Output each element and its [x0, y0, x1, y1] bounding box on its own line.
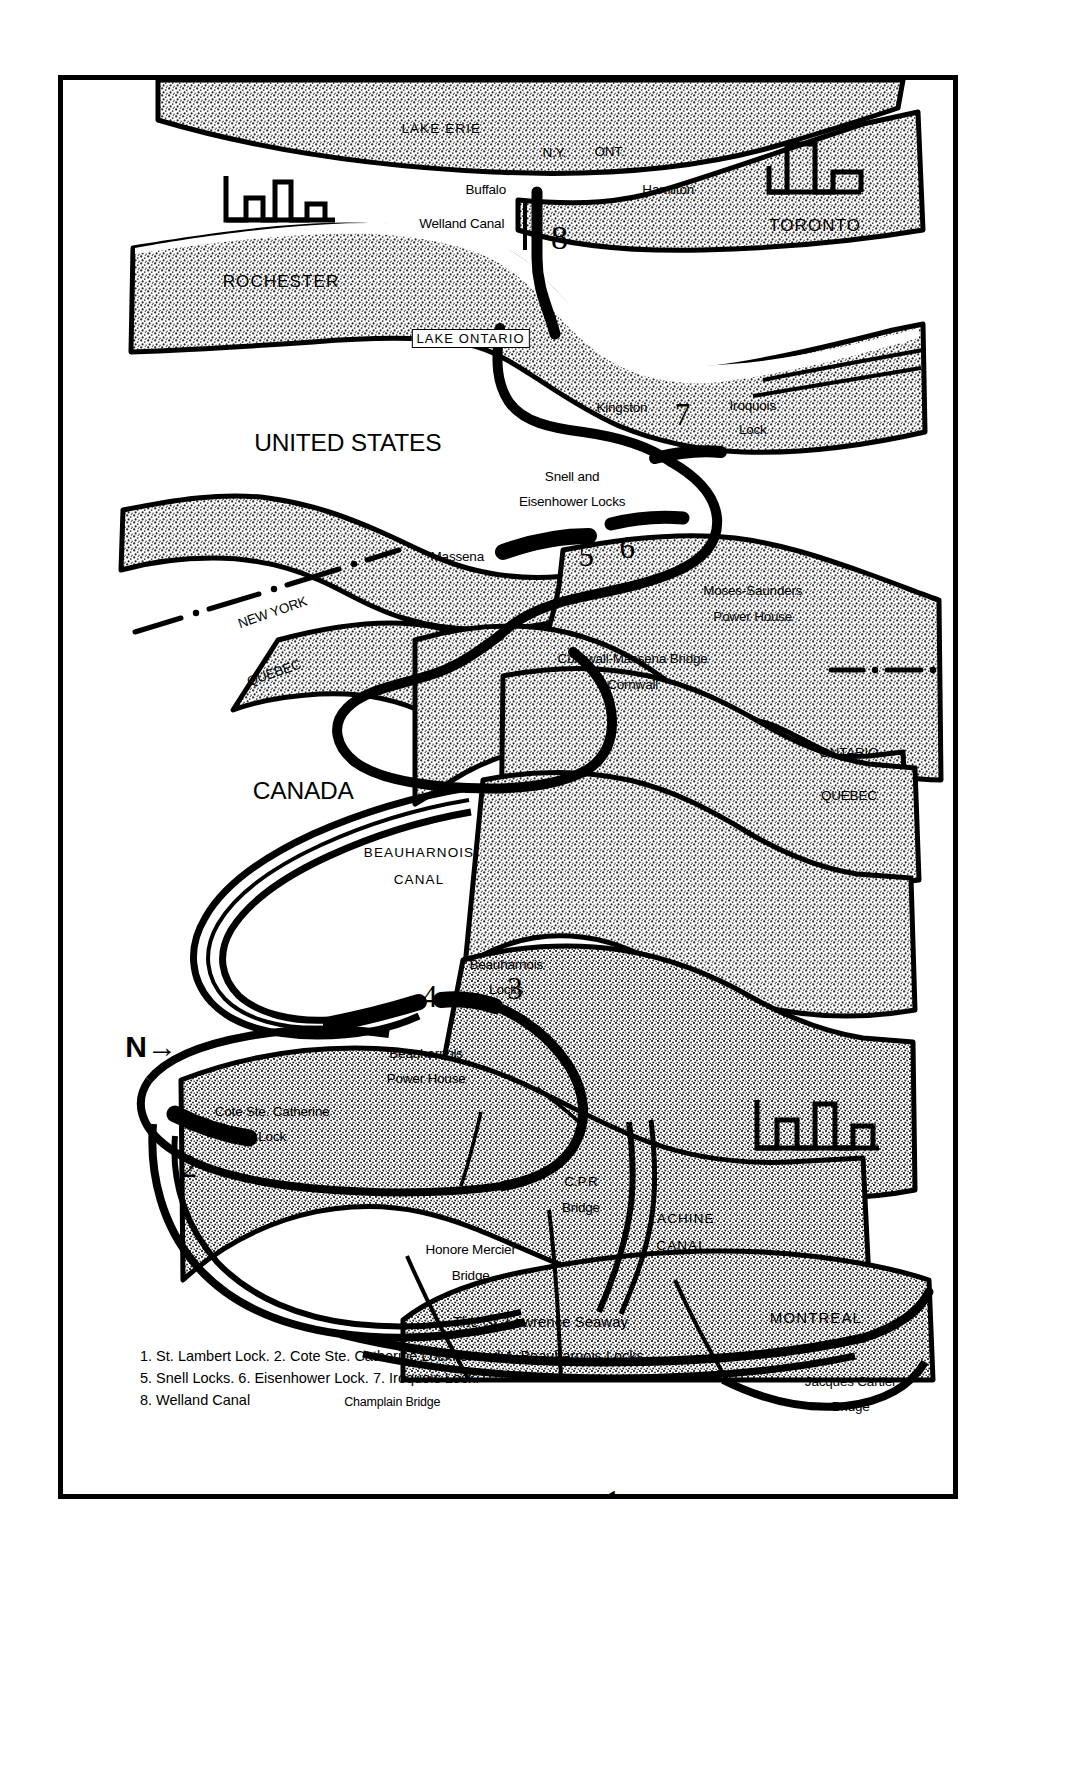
label-quebec-border-e: QUEBEC: [821, 788, 877, 803]
label-lake-erie: LAKE ERIE: [401, 121, 481, 136]
label-cpr-bridge-line2: Bridge: [562, 1200, 600, 1215]
legend-line: 1. St. Lambert Lock. 2. Cote Ste. Cather…: [140, 1345, 648, 1367]
label-beauharnois-power-house-line2: Power House: [387, 1071, 466, 1086]
figure-caption: The St. Lawrence Seaway: [0, 1313, 1081, 1330]
label-honore-mercier-line1: Honore Mercier: [425, 1242, 515, 1257]
lock-number-7: 7: [675, 397, 691, 433]
label-lake-ontario: LAKE ONTARIO: [411, 329, 529, 347]
lock-number-2: 2: [182, 1149, 198, 1185]
lock-number-8: 8: [551, 219, 568, 257]
label-moses-saunders-line2: Power House: [713, 609, 792, 624]
label-lachine-canal-line2: CANAL: [656, 1238, 707, 1253]
label-beauharnois-power-house-line1: Beauharnois: [389, 1046, 463, 1061]
lock-number-4: 4: [422, 979, 438, 1015]
map-frame: LAKE ERIE N.Y. ONT. Buffalo Welland Cana…: [58, 75, 958, 1499]
map-canvas: LAKE ERIE N.Y. ONT. Buffalo Welland Cana…: [63, 80, 953, 1494]
label-ontario-border-e: ONTARIO: [819, 745, 878, 760]
label-kingston: Kingston: [596, 400, 647, 415]
label-jacques-cartier-line1: Jacques Cartier: [805, 1374, 897, 1389]
label-buffalo: Buffalo: [466, 182, 506, 197]
label-toronto: TORONTO: [769, 216, 861, 235]
legend-line: 8. Welland Canal: [140, 1389, 648, 1411]
label-moses-saunders-line1: Moses-Saunders: [703, 583, 802, 598]
label-cote-ste-catherine-line1: Cote Ste. Catherine: [215, 1104, 330, 1119]
label-snell-line2: Eisenhower Locks: [519, 494, 625, 509]
label-beauharnois-canal-line1: BEAUHARNOIS: [364, 845, 474, 860]
label-beauharnois-canal-line2: CANAL: [394, 872, 445, 887]
label-iroquois-lock-line2: Lock: [739, 422, 767, 437]
label-cpr-bridge-line1: C.P.R: [564, 1174, 597, 1189]
label-united-states: UNITED STATES: [254, 429, 441, 456]
label-jacques-cartier-line2: Bridge: [832, 1399, 870, 1414]
map-artwork: [63, 80, 953, 1494]
lock-number-1: 1: [605, 1484, 621, 1494]
map-page: LAKE ERIE N.Y. ONT. Buffalo Welland Cana…: [0, 0, 1081, 1775]
lock-number-6: 6: [620, 530, 636, 566]
label-lachine-canal-line1: LACHINE: [648, 1211, 714, 1226]
label-cote-ste-catherine-line2: Lock: [258, 1129, 286, 1144]
label-beauharnois-locks-line1: Beauharnois: [469, 957, 543, 972]
label-ny-abbr: N.Y.: [542, 145, 566, 160]
label-canada: CANADA: [253, 777, 354, 804]
lock-number-3: 3: [507, 971, 523, 1007]
label-rochester: ROCHESTER: [223, 272, 340, 291]
label-snell-line1: Snell and: [545, 469, 600, 484]
legend-line: 5. Snell Locks. 6. Eisenhower Lock. 7. I…: [140, 1367, 648, 1389]
label-massena: Massena: [431, 549, 484, 564]
label-ont-abbr: ONT.: [594, 144, 624, 159]
label-iroquois-lock-line1: Iroquois: [730, 398, 776, 413]
north-arrow-icon: N→: [125, 1030, 177, 1064]
label-cornwall: Cornwall: [607, 677, 658, 692]
figure-legend: 1. St. Lambert Lock. 2. Cote Ste. Cather…: [140, 1345, 648, 1411]
north-label: N: [125, 1030, 147, 1063]
label-hamilton: Hamilton: [642, 182, 694, 197]
north-arrow-glyph: →: [147, 1030, 177, 1063]
label-welland-canal: Welland Canal: [419, 216, 504, 231]
label-cornwall-massena-bridge: Cornwall-Massena Bridge: [558, 651, 708, 666]
label-honore-mercier-line2: Bridge: [452, 1268, 490, 1283]
lock-number-5: 5: [579, 538, 595, 574]
